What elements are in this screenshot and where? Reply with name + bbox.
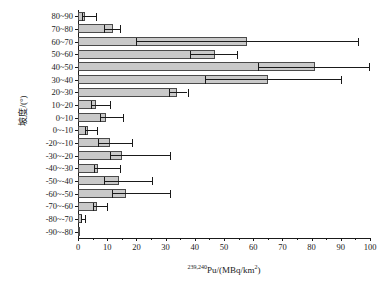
error-bar-line: [205, 79, 341, 80]
x-tick-label: 40: [191, 243, 200, 252]
error-bar-cap-high: [97, 127, 98, 135]
bar-row: [78, 162, 370, 175]
error-bar-cap-high: [170, 190, 171, 198]
error-bar-cap-low: [94, 165, 95, 173]
error-bar-cap-low: [93, 203, 94, 211]
y-tick-label: -70~-60: [46, 202, 73, 211]
y-tick-label: 30~40: [51, 75, 73, 84]
error-bar-cap-high: [188, 89, 189, 97]
bar-row: [78, 149, 370, 162]
error-bar-cap-low: [85, 127, 86, 135]
error-bar-line: [112, 193, 170, 194]
error-bar-line: [169, 92, 188, 93]
bar: [78, 88, 177, 97]
x-tick-minor: [122, 238, 123, 240]
y-tick: [75, 42, 78, 43]
y-tick-label: -80~-70: [46, 215, 73, 224]
error-bar-cap-high: [237, 51, 238, 59]
bar-row: [78, 213, 370, 226]
error-bar-cap-low: [205, 76, 206, 84]
y-tick-label: -90~-80: [46, 227, 73, 236]
error-bar-cap-low: [104, 25, 105, 33]
error-bar-cap-high: [170, 152, 171, 160]
x-axis-title: 239,240Pu/(MBq/km2): [78, 264, 370, 275]
y-tick-label: -50~-40: [46, 177, 73, 186]
y-tick-label: 40~50: [51, 63, 73, 72]
error-bar-line: [258, 67, 369, 68]
y-tick: [75, 16, 78, 17]
error-bar-cap-low: [136, 38, 137, 46]
y-tick: [75, 206, 78, 207]
x-tick: [253, 238, 254, 241]
y-tick-label: 80~90: [51, 12, 73, 21]
slope-pu-bar-chart: 坡度/(°) 80~9070~8060~7050~6040~5030~4020~…: [0, 0, 386, 293]
bar-row: [78, 35, 370, 48]
error-bar-line: [190, 54, 237, 55]
error-bar-cap-high: [120, 25, 121, 33]
x-axis-title-base: Pu/(MBq/km: [207, 265, 255, 275]
error-bar-cap-low: [98, 139, 99, 147]
x-tick-minor: [93, 238, 94, 240]
y-tick-label: 50~60: [51, 50, 73, 59]
error-bar-cap-low: [258, 63, 259, 71]
error-bar-cap-low: [112, 190, 113, 198]
x-tick-minor: [355, 238, 356, 240]
y-tick-label: -30~-20: [46, 151, 73, 160]
y-tick-label: 0~-10: [53, 126, 73, 135]
error-bar-line: [136, 41, 358, 42]
bar-row: [78, 175, 370, 188]
bar-row: [78, 48, 370, 61]
x-tick: [370, 238, 371, 241]
x-tick: [282, 238, 283, 241]
x-tick-minor: [209, 238, 210, 240]
x-tick-label: 100: [364, 243, 377, 252]
error-bar-line: [82, 16, 95, 17]
x-tick-label: 10: [103, 243, 112, 252]
error-bar-cap-low: [104, 177, 105, 185]
y-axis-title: 坡度/(°): [16, 71, 29, 151]
error-bar-cap-low: [190, 51, 191, 59]
error-bar-cap-high: [123, 114, 124, 122]
x-tick: [224, 238, 225, 241]
y-tick-label: 20~30: [51, 88, 73, 97]
y-tick-label: 0~10: [56, 113, 73, 122]
y-tick: [75, 29, 78, 30]
y-tick-label: -60~-50: [46, 189, 73, 198]
error-bar-line: [110, 155, 170, 156]
y-tick: [75, 118, 78, 119]
y-tick-label: -40~-30: [46, 164, 73, 173]
x-tick-minor: [268, 238, 269, 240]
error-bar-cap-low: [110, 152, 111, 160]
bar-row: [78, 73, 370, 86]
x-tick-minor: [326, 238, 327, 240]
x-tick: [195, 238, 196, 241]
y-tick: [75, 105, 78, 106]
bar-row: [78, 111, 370, 124]
error-bar-cap-high: [358, 38, 359, 46]
x-tick: [78, 238, 79, 241]
error-bar-line: [91, 105, 110, 106]
error-bar-line: [100, 117, 123, 118]
bar-row: [78, 99, 370, 112]
bar-row: [78, 187, 370, 200]
x-tick-label: 50: [220, 243, 229, 252]
error-bar-line: [104, 181, 152, 182]
y-tick: [75, 181, 78, 182]
x-tick-label: 90: [337, 243, 346, 252]
error-bar-line: [104, 29, 120, 30]
error-bar-cap-low: [81, 215, 82, 223]
error-bar-cap-low: [100, 114, 101, 122]
bar-row: [78, 61, 370, 74]
error-bar-cap-high: [152, 177, 153, 185]
error-bar-cap-low: [91, 101, 92, 109]
error-bar-cap-high: [96, 13, 97, 21]
plot-area: 80~9070~8060~7050~6040~5030~4020~3010~20…: [78, 10, 370, 238]
y-tick: [75, 130, 78, 131]
bar-row: [78, 10, 370, 23]
x-tick-label: 70: [278, 243, 287, 252]
bar-row: [78, 23, 370, 36]
error-bar-cap-low: [82, 13, 83, 21]
x-axis-title-isotope: 239,240: [187, 264, 207, 270]
x-tick-minor: [151, 238, 152, 240]
y-tick: [75, 54, 78, 55]
